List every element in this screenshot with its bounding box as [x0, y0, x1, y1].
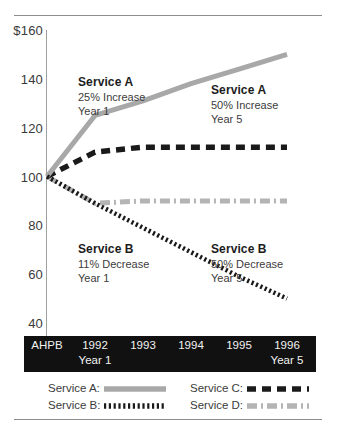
legend-label: Service C: [190, 382, 243, 394]
annotation-title: Service B [211, 242, 283, 257]
legend-item-service-d: Service D: [190, 398, 309, 411]
top-divider-rule [14, 15, 322, 16]
annotation-line1: 11% Decrease [78, 257, 149, 271]
x-tick-label-ahpb: AHPB [21, 339, 73, 351]
annotation-line1: 50% Increase [211, 98, 278, 112]
series-lines [0, 20, 340, 340]
legend-swatch-dashdot [247, 400, 309, 408]
x-tick-label-1994: 1994 [165, 339, 217, 351]
annotation-title: Service A [211, 83, 278, 98]
legend-swatch-dashed [247, 383, 309, 391]
annotation-service-b-year1: Service B 11% Decrease Year 1 [78, 242, 149, 286]
series-line-service-c [47, 147, 287, 176]
x-sublabel-year5: Year 5 [261, 354, 313, 366]
series-line-service-d [47, 177, 287, 204]
annotation-line2: Year 5 [211, 112, 278, 126]
annotation-line2: Year 1 [78, 104, 145, 118]
annotation-line1: 25% Increase [78, 90, 145, 104]
annotation-title: Service A [78, 75, 145, 90]
annotation-title: Service B [78, 242, 149, 257]
plot-area: $160 140 120 100 80 60 40 Service A 25% … [0, 20, 340, 335]
annotation-service-a-year5: Service A 50% Increase Year 5 [211, 83, 278, 127]
legend-label: Service D: [190, 399, 243, 411]
legend-item-service-c: Service C: [190, 381, 309, 394]
chart-figure: $160 140 120 100 80 60 40 Service A 25% … [0, 0, 340, 433]
legend-item-service-a: Service A: [48, 381, 166, 394]
annotation-service-b-year5: Service B 50% Decrease Year 5 [211, 242, 283, 286]
x-tick-label-1996: 1996 [261, 339, 313, 351]
chart-legend: Service A: Service B: Service C: Service… [48, 381, 308, 415]
bottom-divider-rule [14, 419, 322, 420]
x-tick-label-1993: 1993 [117, 339, 169, 351]
x-sublabel-year1: Year 1 [69, 354, 121, 366]
annotation-line2: Year 5 [211, 271, 283, 285]
annotation-service-a-year1: Service A 25% Increase Year 1 [78, 75, 145, 119]
annotation-line2: Year 1 [78, 271, 149, 285]
x-tick-label-1992: 1992 [69, 339, 121, 351]
legend-label: Service A: [48, 382, 100, 394]
annotation-line1: 50% Decrease [211, 257, 283, 271]
x-axis-band: AHPB 1992 1993 1994 1995 1996 Year 1 Yea… [24, 336, 316, 372]
legend-label: Service B: [48, 399, 100, 411]
x-tick-label-1995: 1995 [213, 339, 265, 351]
legend-swatch-dotted [104, 400, 166, 408]
legend-item-service-b: Service B: [48, 398, 166, 411]
legend-swatch-solid [104, 383, 166, 391]
